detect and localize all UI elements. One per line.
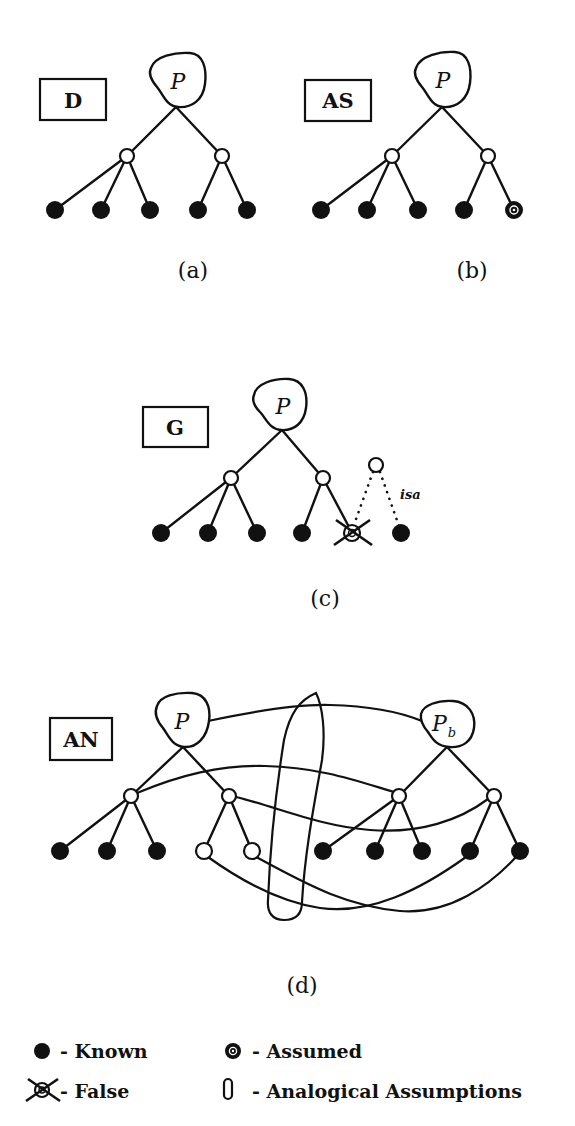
tag-label-an: AN bbox=[62, 727, 99, 752]
root-label: P bbox=[275, 394, 292, 419]
tag-label-d: D bbox=[64, 88, 82, 113]
legend-item-false: - False bbox=[26, 1079, 129, 1102]
unknown-leaf bbox=[244, 843, 260, 859]
assumed-leaf bbox=[505, 201, 523, 219]
root-label: P bbox=[174, 709, 191, 734]
legend-item-analogical: - Analogical Assumptions bbox=[224, 1079, 522, 1102]
false-leaf bbox=[334, 520, 372, 545]
known-leaf bbox=[366, 842, 384, 860]
subgoal-node bbox=[124, 789, 138, 803]
known-icon bbox=[34, 1043, 50, 1059]
known-leaf bbox=[98, 842, 116, 860]
base-node-pb bbox=[421, 701, 475, 747]
figure-canvas: D P (a) AS bbox=[0, 0, 575, 1126]
caption-c: (c) bbox=[310, 586, 340, 611]
analogical-assumption-oval bbox=[268, 693, 324, 920]
subgoal-node bbox=[316, 471, 330, 485]
legend-item-known: - Known bbox=[34, 1040, 148, 1062]
known-leaf bbox=[358, 201, 376, 219]
caption-a: (a) bbox=[178, 258, 208, 283]
isa-links bbox=[355, 472, 399, 526]
panel-d: AN P bbox=[50, 693, 529, 998]
panel-b: AS P (b) bbox=[305, 52, 523, 283]
subgoal-node bbox=[120, 149, 134, 163]
known-leaf bbox=[92, 201, 110, 219]
isa-label: isa bbox=[400, 487, 421, 502]
known-leaf bbox=[312, 201, 330, 219]
tag-label-as: AS bbox=[321, 88, 353, 113]
unknown-leaf bbox=[196, 843, 212, 859]
known-leaf bbox=[314, 842, 332, 860]
panel-c: G isa P (c) bbox=[143, 379, 421, 611]
known-leaf bbox=[293, 524, 311, 542]
known-leaf bbox=[46, 201, 64, 219]
caption-b: (b) bbox=[456, 258, 487, 283]
subgoal-node bbox=[222, 789, 236, 803]
root-label: P bbox=[435, 68, 452, 93]
known-leaf bbox=[461, 842, 479, 860]
known-leaf bbox=[141, 201, 159, 219]
root-label: P bbox=[170, 69, 187, 94]
generalized-node bbox=[369, 458, 383, 472]
known-leaf bbox=[238, 201, 256, 219]
known-leaf bbox=[148, 842, 166, 860]
legend-false-label: - False bbox=[60, 1080, 129, 1102]
known-leaf bbox=[409, 201, 427, 219]
legend-assumed-label: - Assumed bbox=[252, 1040, 362, 1062]
caption-d: (d) bbox=[286, 973, 317, 998]
known-leaf bbox=[511, 842, 529, 860]
known-leaf bbox=[51, 842, 69, 860]
false-icon bbox=[26, 1079, 60, 1101]
known-leaf bbox=[152, 524, 170, 542]
known-leaf bbox=[199, 524, 217, 542]
tag-label-g: G bbox=[166, 415, 184, 440]
assumed-icon bbox=[225, 1043, 241, 1059]
subgoal-node bbox=[487, 789, 501, 803]
known-leaf bbox=[392, 524, 410, 542]
subgoal-node bbox=[392, 789, 406, 803]
oval-icon bbox=[224, 1079, 232, 1099]
subgoal-node bbox=[215, 149, 229, 163]
known-leaf bbox=[413, 842, 431, 860]
subgoal-node bbox=[224, 471, 238, 485]
known-leaf bbox=[189, 201, 207, 219]
legend: - Known - Assumed - False - Analogical A… bbox=[26, 1040, 522, 1102]
legend-analogical-label: - Analogical Assumptions bbox=[252, 1080, 522, 1102]
subgoal-node bbox=[385, 149, 399, 163]
legend-known-label: - Known bbox=[60, 1040, 148, 1062]
known-leaf bbox=[248, 524, 266, 542]
panel-a: D P (a) bbox=[40, 53, 256, 283]
subgoal-node bbox=[481, 149, 495, 163]
known-leaf bbox=[455, 201, 473, 219]
legend-item-assumed: - Assumed bbox=[225, 1040, 362, 1062]
